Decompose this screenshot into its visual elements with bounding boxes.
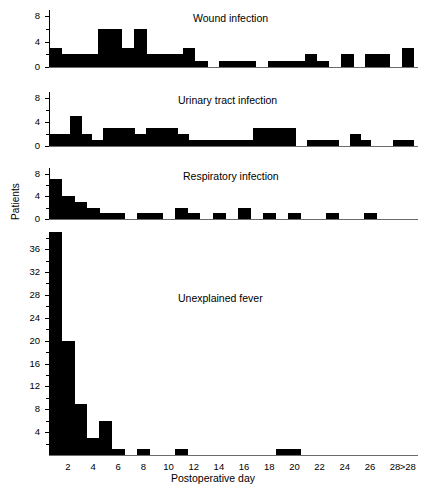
histogram-bar [276, 449, 289, 455]
histogram-bar [74, 404, 87, 455]
histogram-bar [62, 341, 75, 455]
y-axis-tick-label: 24 [20, 312, 40, 323]
histogram-bar [175, 449, 188, 455]
x-axis-tick-label: >28 [395, 461, 421, 472]
y-axis-tick-label: 28 [20, 289, 40, 300]
histogram-bar [112, 449, 125, 455]
x-axis-tick-label: 22 [307, 461, 333, 472]
x-axis-tick-label: 16 [231, 461, 257, 472]
panel-unexplained-fever: Unexplained fever 4812162024283236246810… [0, 0, 426, 497]
histogram-bar [87, 438, 100, 455]
x-axis-tick-label: 18 [256, 461, 282, 472]
y-axis-tick-label: 32 [20, 266, 40, 277]
histogram-bar [288, 449, 301, 455]
x-axis-tick-label: 6 [105, 461, 131, 472]
x-axis-tick-label: 26 [357, 461, 383, 472]
y-axis-tick-label: 16 [20, 358, 40, 369]
x-axis-tick-label: 20 [281, 461, 307, 472]
x-axis-tick-label: 8 [130, 461, 156, 472]
x-axis-tick-label: 14 [206, 461, 232, 472]
panel-title-fever: Unexplained fever [178, 292, 263, 304]
histogram-bar [99, 421, 112, 455]
x-axis-tick-label: 2 [55, 461, 81, 472]
histogram-bar [137, 449, 150, 455]
x-axis-line [49, 455, 418, 456]
y-axis-tick-label: 4 [20, 426, 40, 437]
x-axis-tick-label: 4 [80, 461, 106, 472]
histogram-figure: Patients Postoperative day Wound infecti… [0, 0, 426, 497]
y-axis-tick-label: 36 [20, 243, 40, 254]
y-axis-tick-label: 12 [20, 380, 40, 391]
x-axis-tick-label: 24 [332, 461, 358, 472]
y-axis-tick-label: 20 [20, 335, 40, 346]
histogram-bar [49, 232, 62, 455]
x-axis-tick-label: 10 [156, 461, 182, 472]
y-axis-tick-label: 8 [20, 403, 40, 414]
x-axis-tick-label: 12 [181, 461, 207, 472]
